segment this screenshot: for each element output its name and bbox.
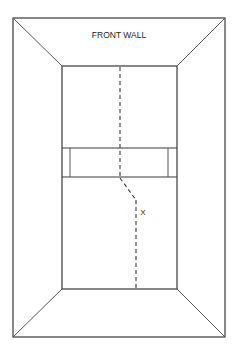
corner-line-bottom-left: [13, 289, 62, 337]
front-wall-label: FRONT WALL: [92, 30, 147, 40]
corner-line-bottom-right: [177, 289, 225, 337]
corner-line-top-left: [13, 18, 62, 66]
x-marker-label: X: [140, 208, 146, 217]
court-diagram: FRONT WALL X: [0, 0, 239, 355]
corner-line-top-right: [177, 18, 225, 66]
path-diagonal-segment: [120, 178, 136, 200]
